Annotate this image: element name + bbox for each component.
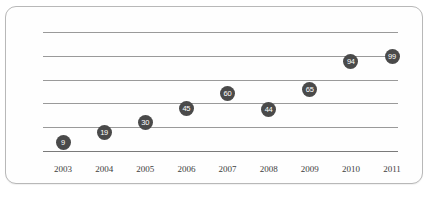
data-point-bubble: 60 [220,86,235,101]
data-point-bubble: 65 [302,82,317,97]
gridline [43,32,398,33]
x-axis-line [43,151,398,152]
data-point-bubble: 44 [261,102,276,117]
data-point-bubble: 99 [385,49,400,64]
x-axis-tick-label: 2003 [43,164,83,174]
data-point-bubble: 9 [56,135,71,150]
data-point-bubble: 94 [343,54,358,69]
x-axis-tick-label: 2005 [125,164,165,174]
x-axis-tick-label: 2009 [290,164,330,174]
data-point-bubble: 30 [138,115,153,130]
data-point-bubble: 19 [97,125,112,140]
gridline [43,127,398,128]
chart-frame: 2003200420052006200720082009201020119193… [5,6,423,184]
x-axis-tick-label: 2007 [208,164,248,174]
plot-area: 2003200420052006200720082009201020119193… [6,7,424,185]
data-point-bubble: 45 [179,101,194,116]
x-axis-tick-label: 2006 [166,164,206,174]
gridline [43,103,398,104]
x-axis-tick-label: 2004 [84,164,124,174]
gridline [43,80,398,81]
x-axis-tick-label: 2011 [372,164,412,174]
x-axis-tick-label: 2010 [331,164,371,174]
x-axis-tick-label: 2008 [249,164,289,174]
